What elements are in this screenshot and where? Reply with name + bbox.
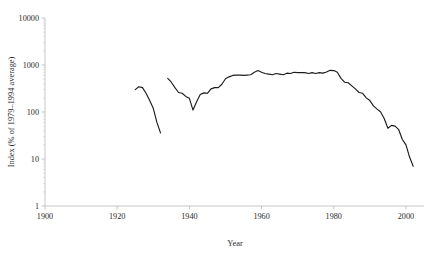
x-tick-label: 1940 [181, 212, 197, 221]
y-axis-title: Index (% of 1979–1994 average) [7, 56, 16, 167]
x-tick-label: 1980 [326, 212, 342, 221]
chart-container: 110100100010000 190019201940196019802000… [0, 0, 430, 260]
y-tick-label: 10000 [19, 14, 39, 23]
y-tick-label: 1000 [23, 61, 39, 70]
data-line-segment-1 [135, 87, 160, 133]
y-axis-ticks: 110100100010000 [19, 14, 45, 211]
data-line-segment-2 [168, 70, 413, 166]
x-tick-label: 1900 [37, 212, 53, 221]
x-tick-label: 2000 [398, 212, 414, 221]
y-tick-label: 100 [27, 108, 39, 117]
line-chart: 110100100010000 190019201940196019802000… [0, 0, 430, 260]
y-tick-label: 1 [35, 202, 39, 211]
axes-group [45, 18, 424, 206]
x-axis-title: Year [227, 239, 243, 248]
y-tick-label: 10 [31, 155, 39, 164]
data-series-group [135, 70, 413, 166]
x-axis-ticks: 190019201940196019802000 [37, 206, 414, 221]
x-tick-label: 1960 [253, 212, 269, 221]
x-tick-label: 1920 [109, 212, 125, 221]
